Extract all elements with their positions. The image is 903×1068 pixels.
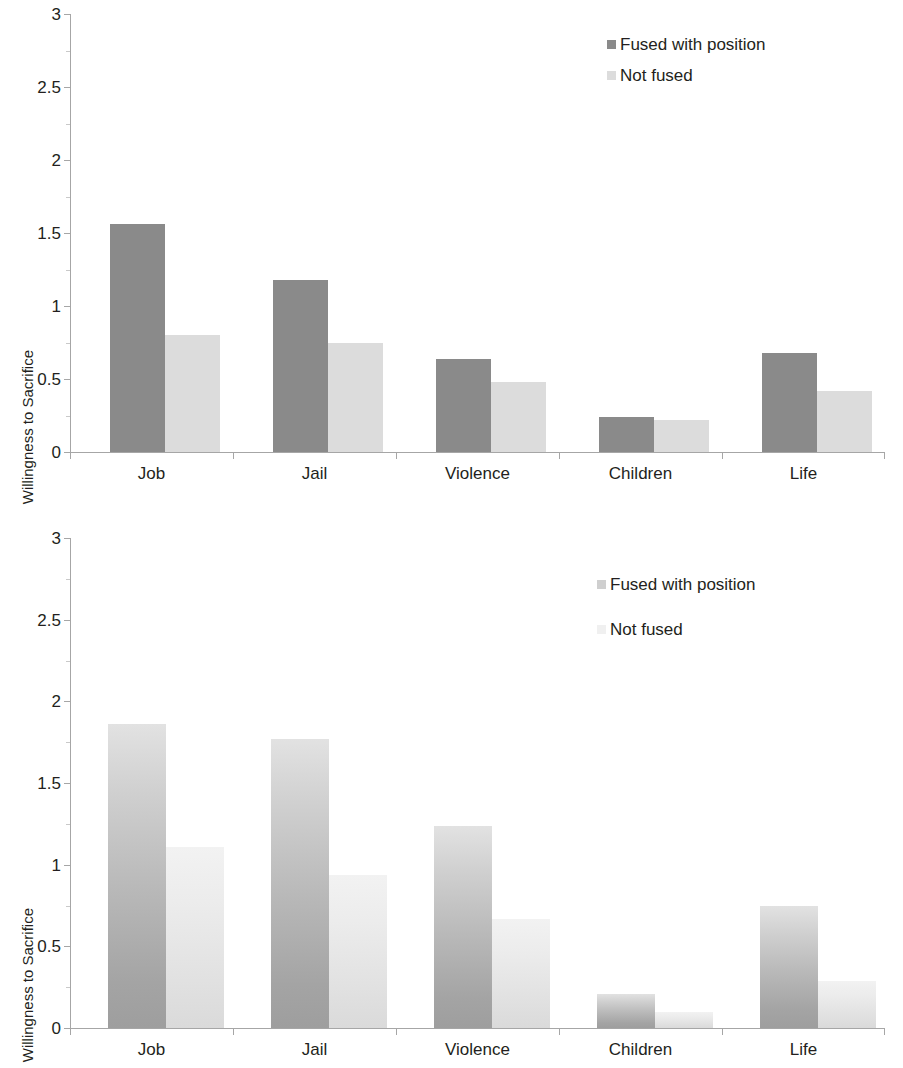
legend-item-notfused-top: Not fused <box>607 67 766 84</box>
x-axis-line-top <box>70 452 885 453</box>
x-tick-label-children: Children <box>609 1040 672 1060</box>
bar-notfused-children-top <box>654 420 709 452</box>
bar-fused-jail-top <box>273 280 328 452</box>
legend-swatch-icon <box>597 625 606 634</box>
plot-area-top: 3 2.5 2 1.5 1 0.5 0 <box>70 14 885 452</box>
legend-bottom: Fused with position Not fused <box>597 576 756 638</box>
x-tick-label-life: Life <box>790 464 817 484</box>
bar-fused-job-bottom <box>108 724 166 1028</box>
bar-fused-children-top <box>599 417 654 452</box>
plot-area-bottom: 3 2.5 2 1.5 1 0.5 0 <box>70 538 885 1028</box>
x-tick-label-children: Children <box>609 464 672 484</box>
x-tick-label-job: Job <box>138 464 165 484</box>
y-tick-label: 1 <box>52 856 61 873</box>
legend-item-notfused-bottom: Not fused <box>597 621 756 638</box>
y-tick-label: 2.5 <box>37 611 61 628</box>
bar-fused-violence-bottom <box>434 826 492 1029</box>
y-tick-label: 0.5 <box>37 938 61 955</box>
x-tick-label-job: Job <box>138 1040 165 1060</box>
y-tick-label: 0 <box>52 444 61 461</box>
y-axis-title-top: Willingness to Sacrifice <box>0 0 28 460</box>
y-axis-line-top <box>70 14 71 452</box>
bar-notfused-violence-top <box>491 382 546 452</box>
y-tick-label: 1 <box>52 298 61 315</box>
legend-label: Fused with position <box>620 36 766 53</box>
x-tick-label-violence: Violence <box>445 464 510 484</box>
y-axis-line-bottom <box>70 538 71 1028</box>
bar-notfused-job-bottom <box>166 847 224 1028</box>
y-tick-label: 2.5 <box>37 79 61 96</box>
y-tick-label: 3 <box>52 530 61 547</box>
x-tick-label-violence: Violence <box>445 1040 510 1060</box>
y-tick-label: 2 <box>52 152 61 169</box>
y-tick-label: 2 <box>52 693 61 710</box>
bar-notfused-jail-top <box>328 343 383 453</box>
y-tick-label: 0.5 <box>37 371 61 388</box>
legend-label: Fused with position <box>610 576 756 593</box>
bar-fused-jail-bottom <box>271 739 329 1028</box>
bar-fused-job-top <box>110 224 165 452</box>
chart-panel-bottom: Willingness to Sacrifice 3 2.5 2 1.5 1 0… <box>0 518 903 1068</box>
bar-notfused-life-top <box>817 391 872 452</box>
x-tick-label-life: Life <box>790 1040 817 1060</box>
legend-swatch-icon <box>607 71 616 80</box>
legend-swatch-icon <box>597 580 606 589</box>
legend-swatch-icon <box>607 40 616 49</box>
x-tick-label-jail: Jail <box>302 1040 328 1060</box>
legend-top: Fused with position Not fused <box>607 36 766 84</box>
y-tick-label: 0 <box>52 1020 61 1037</box>
bar-notfused-job-top <box>165 335 220 452</box>
bar-notfused-violence-bottom <box>492 919 550 1028</box>
bar-fused-life-top <box>762 353 817 452</box>
y-tick-label: 3 <box>52 6 61 23</box>
legend-item-fused-top: Fused with position <box>607 36 766 53</box>
y-axis-title-bottom: Willingness to Sacrifice <box>0 518 28 1030</box>
bar-notfused-jail-bottom <box>329 875 387 1029</box>
legend-item-fused-bottom: Fused with position <box>597 576 756 593</box>
x-tick-label-jail: Jail <box>302 464 328 484</box>
legend-label: Not fused <box>610 621 683 638</box>
bar-notfused-children-bottom <box>655 1012 713 1028</box>
x-axis-line-bottom <box>70 1028 885 1029</box>
bar-fused-life-bottom <box>760 906 818 1029</box>
chart-panel-top: Willingness to Sacrifice 3 2.5 2 1.5 1 0… <box>0 0 903 510</box>
legend-label: Not fused <box>620 67 693 84</box>
bar-notfused-life-bottom <box>818 981 876 1028</box>
y-tick-label: 1.5 <box>37 225 61 242</box>
bar-fused-children-bottom <box>597 994 655 1028</box>
bar-fused-violence-top <box>436 359 491 452</box>
y-tick-label: 1.5 <box>37 775 61 792</box>
